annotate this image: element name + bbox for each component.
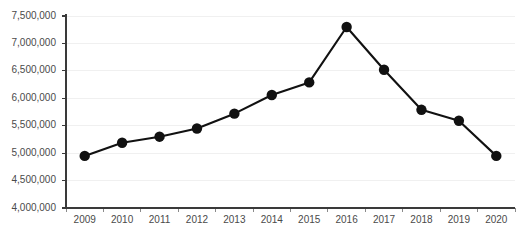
y-tick-label: 7,000,000 — [12, 37, 57, 48]
data-point-marker — [117, 138, 127, 148]
data-point-marker — [229, 108, 239, 118]
chart-background — [0, 0, 522, 226]
y-tick-label: 6,500,000 — [12, 64, 57, 75]
x-tick-label: 2013 — [223, 214, 246, 225]
x-tick-label: 2015 — [298, 214, 321, 225]
y-tick-label: 4,000,000 — [12, 202, 57, 213]
y-tick-label: 5,000,000 — [12, 147, 57, 158]
chart-canvas: 4,000,0004,500,0005,000,0005,500,0006,00… — [0, 0, 522, 226]
x-tick-label: 2011 — [149, 214, 171, 225]
data-point-marker — [491, 151, 501, 161]
data-point-marker — [416, 105, 426, 115]
data-point-marker — [192, 123, 202, 133]
data-point-marker — [454, 116, 464, 126]
y-tick-label: 5,500,000 — [12, 119, 57, 130]
x-tick-label: 2016 — [336, 214, 359, 225]
data-point-marker — [154, 131, 164, 141]
x-tick-label: 2009 — [74, 214, 97, 225]
data-point-marker — [267, 90, 277, 100]
x-tick-label: 2014 — [261, 214, 284, 225]
x-tick-label: 2018 — [410, 214, 433, 225]
data-point-marker — [379, 65, 389, 75]
y-tick-label: 6,000,000 — [12, 92, 57, 103]
x-tick-label: 2010 — [111, 214, 134, 225]
y-tick-label: 7,500,000 — [12, 10, 57, 21]
line-chart: 4,000,0004,500,0005,000,0005,500,0006,00… — [0, 0, 522, 226]
x-tick-label: 2019 — [448, 214, 471, 225]
data-point-marker — [80, 151, 90, 161]
y-tick-label: 4,500,000 — [12, 174, 57, 185]
x-tick-label: 2020 — [485, 214, 508, 225]
x-tick-label: 2017 — [373, 214, 396, 225]
x-tick-label: 2012 — [186, 214, 209, 225]
data-point-marker — [341, 22, 351, 32]
data-point-marker — [304, 77, 314, 87]
